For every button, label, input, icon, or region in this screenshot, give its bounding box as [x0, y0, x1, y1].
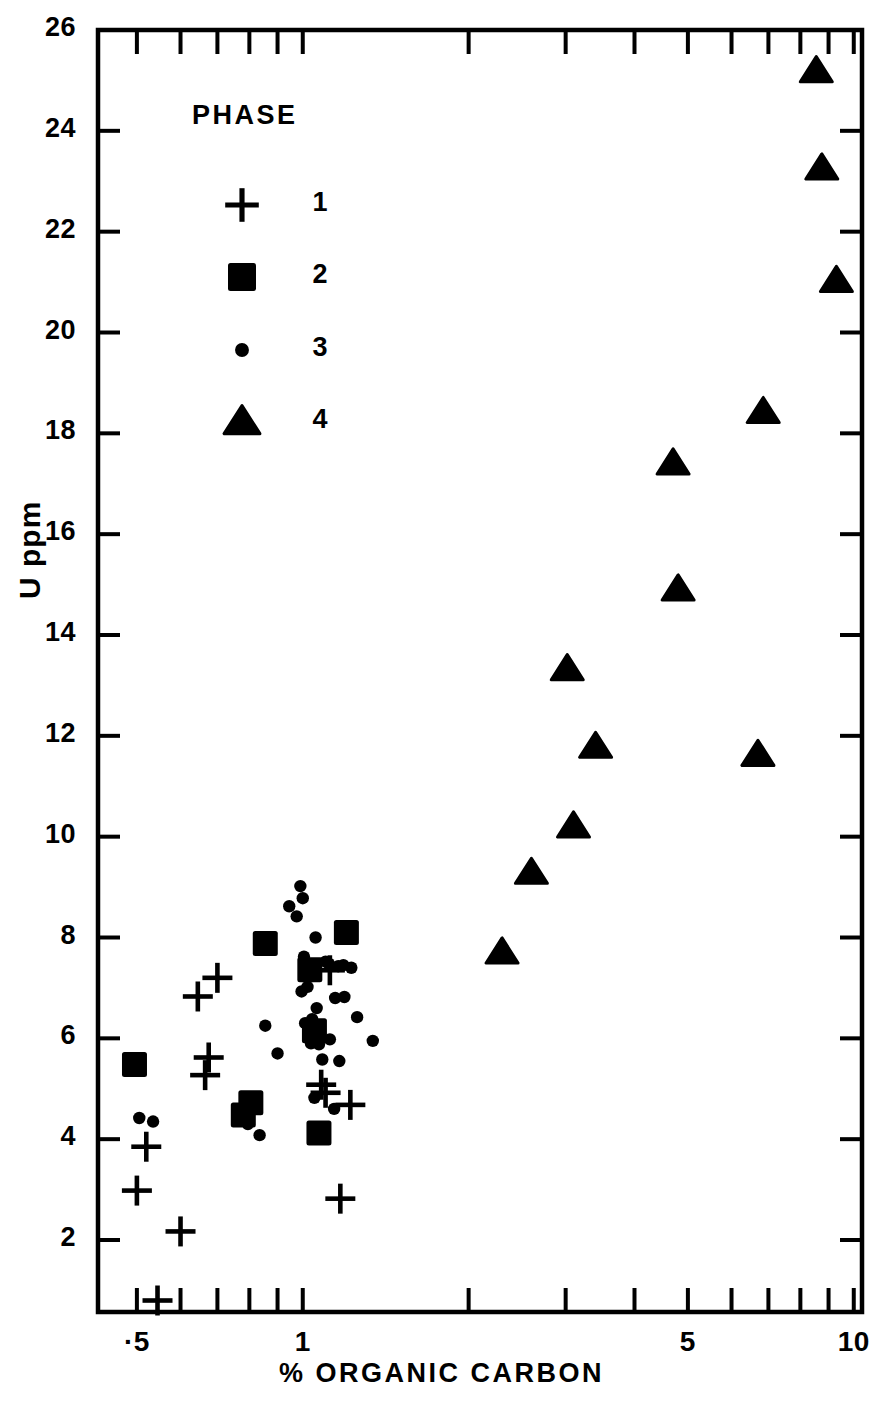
marker-triangle: [800, 57, 832, 82]
marker-triangle: [551, 655, 583, 680]
marker-dot: [294, 880, 306, 892]
marker-dot: [345, 962, 357, 974]
marker-square: [306, 1121, 331, 1146]
y-tick-label: 16: [6, 516, 76, 547]
marker-dot: [271, 1047, 283, 1059]
marker-dot: [338, 991, 350, 1003]
marker-square: [334, 920, 359, 945]
marker-dot: [328, 1103, 340, 1115]
legend-entry-label: 4: [300, 404, 340, 435]
marker-dot: [259, 1020, 271, 1032]
marker-triangle: [820, 266, 852, 291]
y-tick-label: 22: [6, 214, 76, 245]
marker-dot: [297, 892, 309, 904]
marker-triangle: [747, 397, 779, 422]
y-tick-label: 20: [6, 315, 76, 346]
y-tick-label: 24: [6, 113, 76, 144]
marker-dot: [309, 931, 321, 943]
marker-dot: [133, 1112, 145, 1124]
marker-triangle: [486, 938, 518, 963]
x-axis-title: % ORGANIC CARBON: [0, 1358, 883, 1389]
y-tick-label: 10: [6, 819, 76, 850]
marker-square: [238, 1090, 263, 1115]
y-tick-label: 2: [6, 1222, 76, 1253]
marker-triangle: [515, 858, 547, 883]
legend-entry-label: 1: [300, 187, 340, 218]
y-tick-label: 18: [6, 415, 76, 446]
y-tick-label: 12: [6, 718, 76, 749]
x-tick-label: 5: [648, 1326, 728, 1358]
scatter-chart-figure: U ppm % ORGANIC CARBON PHASE 26242220181…: [0, 0, 883, 1409]
x-tick-label: 10: [814, 1326, 883, 1358]
marker-dot: [311, 1002, 323, 1014]
marker-dot: [291, 910, 303, 922]
legend-entry-label: 2: [300, 259, 340, 290]
marker-dot: [351, 1011, 363, 1023]
marker-dot: [235, 343, 249, 357]
legend-title: PHASE: [192, 100, 298, 131]
y-tick-label: 6: [6, 1020, 76, 1051]
marker-square: [228, 263, 256, 291]
marker-triangle: [662, 575, 694, 600]
x-tick-label: ·5: [97, 1326, 177, 1358]
y-tick-label: 14: [6, 617, 76, 648]
y-tick-label: 26: [6, 12, 76, 43]
marker-dot: [313, 1038, 325, 1050]
marker-dot: [283, 900, 295, 912]
marker-triangle: [558, 812, 590, 837]
axis-frame: [98, 30, 862, 1312]
marker-dot: [242, 1118, 254, 1130]
marker-square: [122, 1052, 147, 1077]
marker-dot: [367, 1035, 379, 1047]
plot-canvas: [0, 0, 883, 1409]
marker-triangle: [580, 732, 612, 757]
x-tick-label: 1: [263, 1326, 343, 1358]
marker-triangle: [657, 449, 689, 474]
marker-dot: [308, 1092, 320, 1104]
marker-dot: [306, 1013, 318, 1025]
y-axis-title: U ppm: [13, 555, 47, 599]
legend-entry-label: 3: [300, 332, 340, 363]
marker-triangle: [806, 154, 838, 179]
marker-dot: [301, 981, 313, 993]
marker-dot: [298, 950, 310, 962]
marker-triangle: [742, 740, 774, 765]
marker-square: [253, 931, 278, 956]
y-tick-label: 8: [6, 920, 76, 951]
y-tick-label: 4: [6, 1121, 76, 1152]
marker-dot: [253, 1129, 265, 1141]
marker-dot: [324, 1033, 336, 1045]
marker-dot: [333, 1055, 345, 1067]
marker-dot: [147, 1115, 159, 1127]
marker-triangle: [224, 406, 260, 434]
marker-dot: [316, 1053, 328, 1065]
